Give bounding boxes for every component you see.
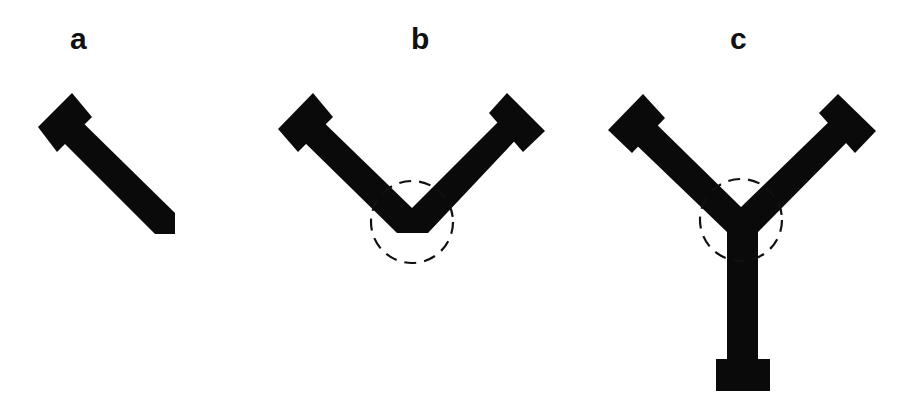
panel-a-shape xyxy=(38,93,175,234)
arm-a xyxy=(57,112,175,234)
stem-base-c xyxy=(716,359,770,391)
v-arms-b xyxy=(298,112,524,233)
panel-c-shape xyxy=(608,94,876,391)
panel-b-shape xyxy=(278,93,545,233)
figure-canvas xyxy=(0,0,915,400)
y-arms-c xyxy=(627,113,855,360)
